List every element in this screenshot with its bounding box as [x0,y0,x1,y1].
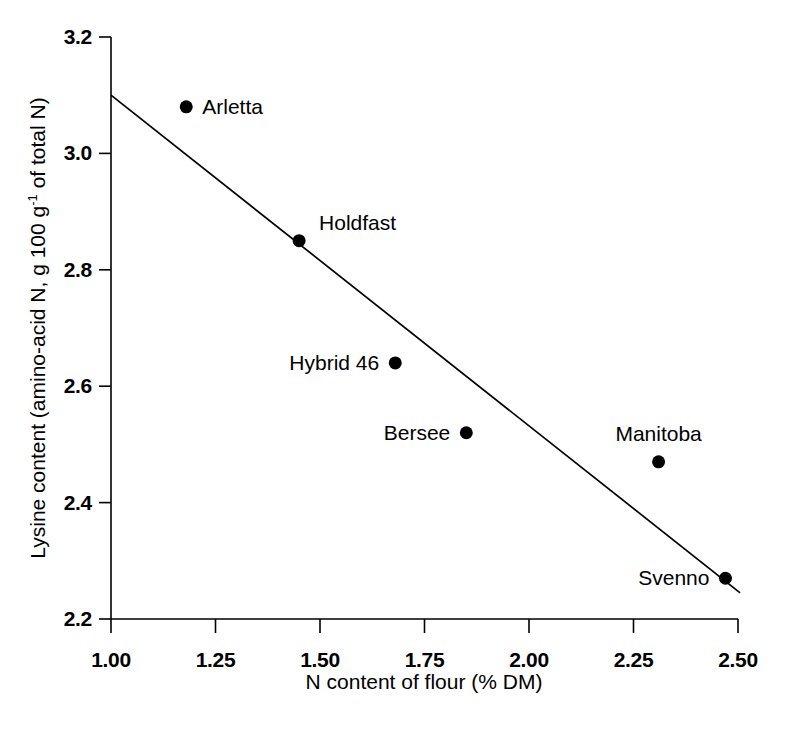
y-axis-title-suffix: of total N) [26,97,49,194]
regression-line [111,95,740,593]
x-tick-label: 2.50 [718,648,758,672]
data-point-label: Hybrid 46 [289,351,379,375]
data-point-marker [293,234,306,247]
axes [111,37,738,619]
data-point-marker [719,572,732,585]
trend-line [111,95,740,593]
data-points [180,100,732,584]
x-tick-label: 2.25 [614,648,654,672]
data-point-marker [389,356,402,369]
y-tick-label: 3.2 [20,25,92,49]
x-axis-title: N content of flour (% DM) [306,670,543,694]
x-tick-label: 1.00 [91,648,131,672]
scatter-plot-figure: 2.22.42.62.83.03.2 1.001.251.501.752.002… [0,0,795,741]
data-point-label: Manitoba [615,422,701,446]
data-point-marker [460,426,473,439]
data-point-label: Svenno [638,566,709,590]
data-point-marker [180,100,193,113]
data-point-label: Arletta [202,95,263,119]
data-point-label: Holdfast [319,211,396,235]
y-axis-title-prefix: Lysine content (amino-acid N, g 100 g [26,206,49,559]
y-axis-title: Lysine content (amino-acid N, g 100 g-1 … [26,97,50,558]
y-axis-ticks [99,37,111,619]
plot-canvas [0,0,795,741]
x-axis-ticks [111,619,738,633]
y-tick-label: 2.2 [20,607,92,631]
data-point-label: Bersee [384,421,451,445]
y-axis-title-exponent: -1 [25,194,40,206]
x-tick-label: 1.25 [196,648,236,672]
x-tick-label: 2.00 [509,648,549,672]
data-point-marker [652,455,665,468]
x-tick-label: 1.75 [405,648,445,672]
x-tick-label: 1.50 [300,648,340,672]
